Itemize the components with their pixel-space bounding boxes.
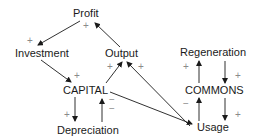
sign-commons-to-regeneration: + bbox=[183, 62, 189, 72]
node-depreciation: Depreciation bbox=[57, 124, 119, 136]
arrow-capital-to-usage bbox=[110, 92, 192, 124]
sign-capital-to-depreciation: + bbox=[64, 110, 70, 120]
sign-usage-to-commons: − bbox=[183, 99, 189, 109]
arrow-profit-to-investment bbox=[38, 21, 80, 45]
node-regeneration: Regeneration bbox=[180, 46, 246, 58]
sign-usage-to-output: + bbox=[138, 62, 144, 72]
node-commons: COMMONS bbox=[185, 84, 244, 96]
sign-commons-to-usage: + bbox=[235, 110, 241, 120]
sign-output-to-profit: + bbox=[83, 21, 89, 31]
sign-investment-to-capital: + bbox=[74, 71, 80, 81]
sign-capital-to-output: + bbox=[107, 62, 113, 72]
node-profit: Profit bbox=[73, 7, 99, 19]
node-capital: CAPITAL bbox=[63, 84, 108, 96]
sign-regeneration-to-commons: + bbox=[235, 71, 241, 81]
node-output: Output bbox=[105, 47, 138, 59]
node-usage: Usage bbox=[197, 121, 229, 133]
arrow-usage-to-output bbox=[127, 62, 190, 126]
arrow-investment-to-capital bbox=[41, 60, 71, 82]
sign-depreciation-to-capital: − bbox=[109, 104, 115, 114]
causal-loop-arrows bbox=[0, 0, 257, 140]
arrow-output-to-profit bbox=[95, 23, 120, 47]
node-investment: Investment bbox=[15, 47, 69, 59]
sign-profit-to-investment: + bbox=[27, 36, 33, 46]
